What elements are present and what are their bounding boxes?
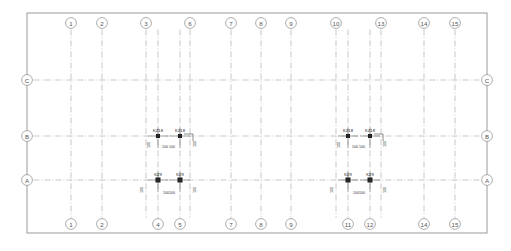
bubble-label: 4 [156, 221, 160, 228]
column-tag-label: KZ9 [366, 172, 374, 177]
bubble-label: 14 [421, 20, 428, 27]
dimension-label: 100 [352, 145, 358, 149]
grid-bubble-left-A[interactable]: A [22, 175, 33, 186]
bubble-label: 8 [259, 221, 263, 228]
column-tag-label: KZ18 [365, 128, 376, 133]
dimension-label: 100 [162, 145, 168, 149]
grid-bubble-right-C[interactable]: C [482, 75, 493, 86]
bubble-label: 12 [367, 221, 374, 228]
grid-bubble-top-2[interactable]: 2 [97, 18, 108, 29]
column-layout-plan: KZ18100100KZ18100100KZ9100100KZ9100100KZ… [0, 0, 511, 251]
bubble-label: 1 [69, 20, 73, 27]
dimension-label: 100 [337, 142, 341, 148]
bubble-label: B [25, 133, 29, 140]
dimension-label: 100 [383, 187, 387, 193]
grid-bubble-bottom-5[interactable]: 5 [175, 219, 186, 230]
grid-bubble-top-8[interactable]: 8 [256, 18, 267, 29]
bubble-label: 3 [144, 20, 148, 27]
bubble-label: 5 [178, 221, 182, 228]
dimension-label: 100 [193, 141, 197, 147]
drawing-canvas: KZ18100100KZ18100100KZ9100100KZ9100100KZ… [0, 0, 511, 251]
column-tag-label: KZ18 [175, 128, 186, 133]
grid-bubble-bottom-12[interactable]: 12 [365, 219, 376, 230]
canvas-background [0, 0, 511, 251]
bubble-label: 15 [452, 221, 459, 228]
column-tag-label: KZ18 [153, 128, 164, 133]
bubble-label: 7 [229, 221, 233, 228]
dimension-label: 100 [359, 191, 365, 195]
bubble-label: 9 [289, 221, 293, 228]
bubble-label: 11 [345, 221, 352, 228]
bubble-label: 1 [69, 221, 73, 228]
bubble-label: 2 [100, 20, 104, 27]
bubble-label: C [485, 77, 490, 84]
dimension-label: 100 [193, 187, 197, 193]
bubble-label: 2 [100, 221, 104, 228]
column-tag-label: KZ9 [344, 172, 352, 177]
grid-bubble-top-3[interactable]: 3 [141, 18, 152, 29]
grid-bubble-left-C[interactable]: C [22, 75, 33, 86]
grid-bubble-bottom-4[interactable]: 4 [153, 219, 164, 230]
grid-bubble-top-13[interactable]: 13 [376, 18, 387, 29]
grid-bubble-bottom-11[interactable]: 11 [343, 219, 354, 230]
grid-bubble-right-B[interactable]: B [482, 131, 493, 142]
grid-bubble-bottom-1[interactable]: 1 [66, 219, 77, 230]
column-tag-label: KZ9 [176, 172, 184, 177]
grid-bubble-top-7[interactable]: 7 [226, 18, 237, 29]
bubble-label: 8 [259, 20, 263, 27]
grid-bubble-bottom-2[interactable]: 2 [97, 219, 108, 230]
grid-bubble-left-B[interactable]: B [22, 131, 33, 142]
bubble-label: B [485, 133, 489, 140]
dimension-label: 100 [383, 141, 387, 147]
column-tag-label: KZ18 [343, 128, 354, 133]
grid-bubble-top-6[interactable]: 6 [185, 18, 196, 29]
bubble-label: C [25, 77, 30, 84]
dimension-label: 100 [147, 142, 151, 148]
grid-bubble-top-15[interactable]: 15 [450, 18, 461, 29]
dimension-label: 100 [169, 191, 175, 195]
grid-bubble-right-A[interactable]: A [482, 175, 493, 186]
grid-bubble-top-9[interactable]: 9 [286, 18, 297, 29]
bubble-label: 9 [289, 20, 293, 27]
grid-bubble-bottom-9[interactable]: 9 [286, 219, 297, 230]
grid-bubble-bottom-7[interactable]: 7 [226, 219, 237, 230]
bubble-label: 13 [378, 20, 385, 27]
dimension-label: 100 [330, 187, 334, 193]
grid-bubble-top-14[interactable]: 14 [419, 18, 430, 29]
dimension-label: 100 [359, 145, 365, 149]
bubble-label: 6 [188, 20, 192, 27]
bubble-label: 10 [333, 20, 340, 27]
bubble-label: 14 [421, 221, 428, 228]
dimension-label: 100 [169, 145, 175, 149]
grid-bubble-bottom-15[interactable]: 15 [450, 219, 461, 230]
column-tag-label: KZ9 [154, 172, 162, 177]
dimension-label: 100 [140, 187, 144, 193]
grid-bubble-bottom-8[interactable]: 8 [256, 219, 267, 230]
bubble-label: 7 [229, 20, 233, 27]
grid-bubble-top-1[interactable]: 1 [66, 18, 77, 29]
grid-bubble-top-10[interactable]: 10 [331, 18, 342, 29]
bubble-label: 15 [452, 20, 459, 27]
grid-bubble-bottom-14[interactable]: 14 [419, 219, 430, 230]
